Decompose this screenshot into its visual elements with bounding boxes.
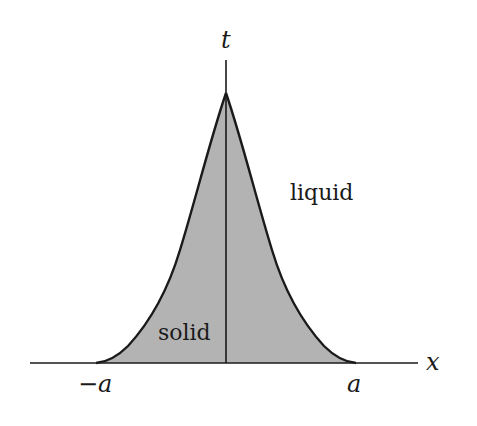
solid-label: solid [158, 320, 211, 345]
phase-diagram: t x −a a solid liquid [0, 0, 477, 426]
left-tick-label: −a [78, 370, 112, 398]
liquid-label: liquid [290, 180, 353, 205]
right-tick-label: a [347, 370, 361, 398]
t-axis-label: t [221, 26, 231, 54]
x-axis-label: x [426, 348, 440, 376]
